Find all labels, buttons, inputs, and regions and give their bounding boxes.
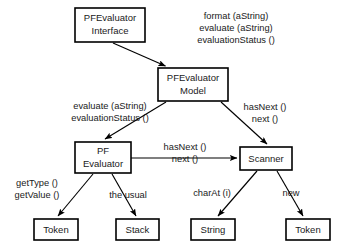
label-model-to-evaluator-messages: evaluate (aString) evaluationStatus () [71, 101, 149, 123]
box-label-pfevaluator-model-line1: PFEvaluator [167, 72, 219, 83]
box-label-pf-evaluator-line2: Evaluator [83, 158, 123, 169]
label-scanner-to-token-messages: new [282, 188, 299, 198]
box-label-stack: Stack [126, 224, 150, 235]
label-interface-messages-line1: format (aString) [204, 11, 269, 21]
label-interface-messages: format (aString) evaluate (aString) eval… [197, 11, 275, 45]
box-stack[interactable]: Stack [116, 219, 159, 240]
box-label-token-right: Token [295, 224, 320, 235]
box-string[interactable]: String [191, 219, 235, 240]
uml-diagram-canvas: PFEvaluator Interface PFEvaluator Model … [0, 0, 339, 249]
box-label-pfevaluator-model-line2: Model [180, 85, 206, 96]
label-model-to-scanner-messages-line2: next () [252, 114, 278, 124]
uml-diagram-svg: PFEvaluator Interface PFEvaluator Model … [0, 0, 339, 249]
box-label-pfevaluator-interface-line2: Interface [92, 25, 129, 36]
label-scanner-to-string-messages-line1: charAt (i) [193, 188, 231, 198]
edge-interface-to-model [113, 43, 166, 66]
box-scanner[interactable]: Scanner [240, 147, 292, 170]
label-interface-messages-line2: evaluate (aString) [199, 23, 272, 33]
label-evaluator-to-stack-messages-line1: the usual [109, 190, 147, 200]
label-evaluator-to-scanner-messages-line2: next () [172, 154, 198, 164]
label-evaluator-to-token-messages-line1: getType () [16, 178, 58, 188]
label-scanner-to-string-messages: charAt (i) [193, 188, 231, 198]
label-interface-messages-line3: evaluationStatus () [197, 35, 275, 45]
label-scanner-to-token-messages-line1: new [282, 188, 299, 198]
box-token-right[interactable]: Token [286, 219, 330, 240]
edge-line-interface-to-model [113, 43, 166, 66]
label-evaluator-to-token-messages-line2: getValue () [15, 190, 60, 200]
box-pf-evaluator[interactable]: PF Evaluator [75, 142, 131, 173]
label-model-to-scanner-messages: hasNext () next () [244, 102, 287, 124]
label-evaluator-to-stack-messages: the usual [109, 190, 147, 200]
label-model-to-evaluator-messages-line1: evaluate (aString) [73, 101, 146, 111]
box-pfevaluator-model[interactable]: PFEvaluator Model [158, 68, 228, 101]
edge-line-evaluator-to-token [58, 174, 93, 216]
box-token-left[interactable]: Token [34, 219, 78, 240]
box-label-pf-evaluator-line1: PF [97, 145, 109, 156]
label-model-to-scanner-messages-line1: hasNext () [244, 102, 287, 112]
box-label-pfevaluator-interface-line1: PFEvaluator [84, 12, 136, 23]
edge-evaluator-to-token [58, 174, 93, 216]
label-evaluator-to-scanner-messages-line1: hasNext () [164, 142, 207, 152]
label-evaluator-to-token-messages: getType () getValue () [15, 178, 60, 200]
box-label-token-left: Token [43, 224, 68, 235]
box-pfevaluator-interface[interactable]: PFEvaluator Interface [75, 8, 145, 42]
box-label-scanner: Scanner [248, 153, 283, 164]
box-label-string: String [201, 224, 226, 235]
label-model-to-evaluator-messages-line2: evaluationStatus () [71, 113, 149, 123]
label-evaluator-to-scanner-messages: hasNext () next () [164, 142, 207, 164]
